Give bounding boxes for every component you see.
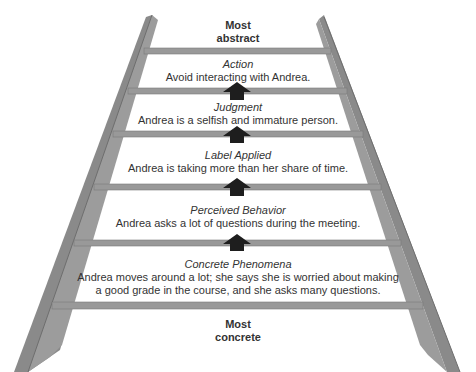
step-title: Perceived Behavior	[0, 204, 476, 217]
step-concrete-phenomena: Concrete Phenomena Andrea moves around a…	[0, 258, 476, 297]
step-text: Andrea asks a lot of questions during th…	[0, 217, 476, 230]
step-action: Action Avoid interacting with Andrea.	[0, 58, 476, 84]
bottom-label-line2: concrete	[0, 331, 476, 344]
bottom-label-line1: Most	[0, 318, 476, 331]
step-judgment: Judgment Andrea is a selfish and immatur…	[0, 101, 476, 127]
step-title: Action	[0, 58, 476, 71]
step-perceived-behavior: Perceived Behavior Andrea asks a lot of …	[0, 204, 476, 230]
top-label: Most abstract	[0, 19, 476, 45]
step-title: Label Applied	[0, 149, 476, 162]
top-label-line2: abstract	[0, 32, 476, 45]
step-text: Andrea moves around a lot; she says she …	[0, 271, 476, 284]
step-text: Andrea is taking more than her share of …	[0, 162, 476, 175]
step-text: a good grade in the course, and she asks…	[0, 284, 476, 297]
step-title: Concrete Phenomena	[0, 258, 476, 271]
step-text: Andrea is a selfish and immature person.	[0, 114, 476, 127]
step-title: Judgment	[0, 101, 476, 114]
step-label-applied: Label Applied Andrea is taking more than…	[0, 149, 476, 175]
step-text: Avoid interacting with Andrea.	[0, 71, 476, 84]
bottom-label: Most concrete	[0, 318, 476, 344]
top-label-line1: Most	[0, 19, 476, 32]
ladder-graphic	[0, 0, 476, 372]
